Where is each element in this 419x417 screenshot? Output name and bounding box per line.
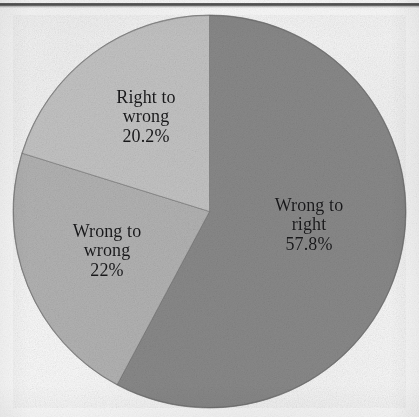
pie-label-wrong-to-wrong: Wrong to wrong 22% <box>47 222 167 280</box>
pie-label-line-2: wrong <box>47 241 167 260</box>
pie-label-right-to-wrong: Right to wrong 20.2% <box>86 88 206 146</box>
pie-label-value: 20.2% <box>86 127 206 146</box>
pie-label-line-2: wrong <box>86 107 206 126</box>
pie-label-line-1: Wrong to <box>249 196 369 215</box>
header-rule-shadow <box>0 6 419 8</box>
pie-label-line-2: right <box>249 215 369 234</box>
pie-label-line-1: Wrong to <box>47 222 167 241</box>
pie-label-value: 22% <box>47 261 167 280</box>
pie-label-value: 57.8% <box>249 235 369 254</box>
pie-label-wrong-to-right: Wrong to right 57.8% <box>249 196 369 254</box>
pie-label-line-1: Right to <box>86 88 206 107</box>
